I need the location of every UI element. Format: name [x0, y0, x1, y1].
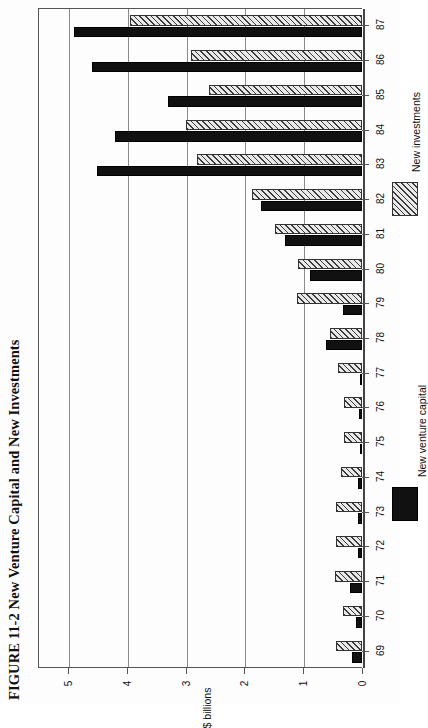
- category-axis-label-74: 74: [375, 467, 386, 485]
- category-axis-label-82: 82: [375, 190, 386, 208]
- category-axis-label-76: 76: [375, 398, 386, 416]
- bar-new-venture-capital: [356, 617, 362, 628]
- category-axis-label-80: 80: [375, 259, 386, 277]
- bar-new-venture-capital: [115, 131, 362, 142]
- plot-area: [38, 8, 362, 668]
- bar-new-investments: [344, 397, 362, 408]
- value-axis-tick: [303, 668, 304, 674]
- value-axis-tick: [244, 668, 245, 674]
- bar-new-investments: [344, 432, 362, 443]
- bar-new-investments: [343, 606, 362, 617]
- category-axis-label-86: 86: [375, 51, 386, 69]
- category-axis-tick: [362, 303, 369, 304]
- legend-swatch-new-venture-capital: [392, 487, 418, 521]
- value-axis-tick: [186, 668, 187, 674]
- category-axis-tick: [362, 616, 369, 617]
- bar-new-venture-capital: [358, 513, 362, 524]
- bar-new-venture-capital: [343, 305, 362, 316]
- category-axis-label-77: 77: [375, 363, 386, 381]
- category-axis-label-79: 79: [375, 294, 386, 312]
- bar-new-venture-capital: [358, 478, 362, 489]
- bar-new-investments: [298, 259, 362, 270]
- bar-new-venture-capital: [350, 583, 362, 594]
- category-axis-tick: [362, 338, 369, 339]
- bar-new-investments: [341, 467, 362, 478]
- bar-new-investments: [197, 154, 362, 165]
- bar-new-investments: [297, 293, 362, 304]
- bar-new-investments: [336, 641, 362, 652]
- page-title: FIGURE 11-2 New Venture Capital and New …: [0, 0, 28, 700]
- legend-swatch-new-investments: [392, 182, 418, 216]
- gridline: [245, 9, 246, 668]
- value-axis-tick-label: 0: [357, 676, 368, 692]
- category-axis-tick: [362, 164, 369, 165]
- category-axis-label-73: 73: [375, 502, 386, 520]
- bar-new-investments: [336, 502, 362, 513]
- bar-new-investments: [209, 85, 362, 96]
- bar-new-venture-capital: [285, 235, 362, 246]
- bar-new-investments: [191, 50, 362, 61]
- category-axis-tick: [362, 477, 369, 478]
- value-axis-tick-label: 1: [298, 676, 309, 692]
- figure-title-container: FIGURE 11-2 New Venture Capital and New …: [0, 0, 30, 703]
- bar-new-investments: [186, 120, 362, 131]
- bar-new-venture-capital: [358, 548, 362, 559]
- value-axis-label: $ billions: [201, 688, 213, 728]
- category-axis-label-69: 69: [375, 641, 386, 659]
- bar-new-investments: [338, 363, 362, 374]
- bar-new-investments: [335, 571, 362, 582]
- value-axis-line: [39, 667, 362, 669]
- bar-new-venture-capital: [92, 62, 362, 73]
- bar-new-venture-capital: [97, 166, 362, 177]
- value-axis-tick-label: 4: [121, 676, 132, 692]
- category-axis-tick: [362, 25, 369, 26]
- gridline: [128, 9, 129, 668]
- bar-new-venture-capital: [168, 96, 362, 107]
- bar-new-venture-capital: [352, 652, 362, 663]
- bar-new-venture-capital: [360, 444, 362, 455]
- category-axis-tick: [362, 407, 369, 408]
- value-axis-tick: [127, 668, 128, 674]
- category-axis-label-85: 85: [375, 85, 386, 103]
- category-axis-tick: [362, 373, 369, 374]
- gridline: [69, 9, 70, 668]
- bar-new-investments: [336, 536, 362, 547]
- bar-new-investments: [330, 328, 362, 339]
- bar-new-investments: [275, 224, 362, 235]
- category-axis-tick: [362, 651, 369, 652]
- category-axis-tick: [362, 130, 369, 131]
- bar-new-venture-capital: [261, 201, 362, 212]
- category-axis-tick: [362, 269, 369, 270]
- chart-area: 012345$ billions697071727374757677787980…: [30, 0, 400, 703]
- category-axis-tick: [362, 199, 369, 200]
- bar-new-venture-capital: [326, 340, 362, 351]
- category-axis-label-83: 83: [375, 155, 386, 173]
- category-axis-tick: [362, 60, 369, 61]
- value-axis-tick-label: 5: [63, 676, 74, 692]
- value-axis-tick-label: 2: [239, 676, 250, 692]
- legend-label-new-venture-capital: New venture capital: [416, 385, 428, 477]
- bar-new-venture-capital: [310, 270, 362, 281]
- gridline: [304, 9, 305, 668]
- value-axis-tick-label: 3: [180, 676, 191, 692]
- category-axis-tick: [362, 95, 369, 96]
- value-axis-tick: [68, 668, 69, 674]
- category-axis-label-87: 87: [375, 16, 386, 34]
- category-axis-label-78: 78: [375, 329, 386, 347]
- category-axis-label-70: 70: [375, 606, 386, 624]
- bar-new-investments: [252, 189, 362, 200]
- bar-new-venture-capital: [359, 409, 362, 420]
- category-axis-tick: [362, 234, 369, 235]
- bar-new-venture-capital: [360, 374, 362, 385]
- category-axis-label-75: 75: [375, 433, 386, 451]
- value-axis-tick: [362, 668, 363, 674]
- gridline: [187, 9, 188, 668]
- category-axis-tick: [362, 512, 369, 513]
- category-axis-tick: [362, 581, 369, 582]
- legend-label-new-investments: New investments: [410, 92, 422, 172]
- category-axis-label-72: 72: [375, 537, 386, 555]
- category-axis-tick: [362, 442, 369, 443]
- bar-new-investments: [130, 15, 362, 26]
- category-axis-label-84: 84: [375, 120, 386, 138]
